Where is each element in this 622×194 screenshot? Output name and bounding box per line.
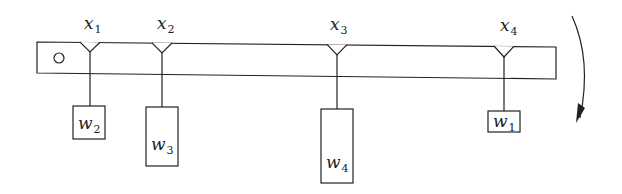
label-x2: x2: [157, 13, 175, 36]
label-x4: x4: [500, 15, 518, 38]
lever-diagram: x1 x2 x3 x4 w2 w3 w4 w1: [0, 0, 622, 194]
label-x3: x3: [330, 14, 348, 37]
beam: [37, 42, 556, 79]
clockwise-arrow-icon: [572, 16, 585, 123]
label-x1: x1: [84, 13, 102, 36]
